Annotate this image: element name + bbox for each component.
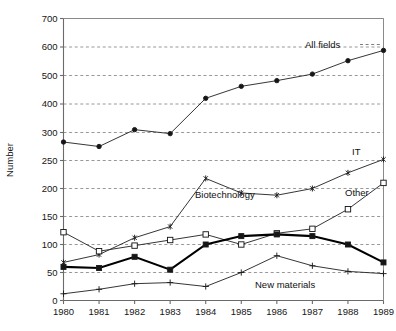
y-tick-label: 400 — [42, 98, 58, 109]
x-tick-label: 1989 — [373, 306, 394, 317]
series-labels: All fieldsITOtherBiotechnologyNew materi… — [195, 39, 381, 290]
data-point-other — [203, 232, 208, 237]
data-point-all-fields — [168, 131, 172, 135]
series-line-new-materials — [64, 256, 384, 294]
data-point-other — [345, 207, 350, 212]
y-axis-ticks: 050100150200250300400500600700 — [42, 13, 64, 306]
data-point-other — [61, 229, 66, 234]
data-point-all-fields — [61, 140, 65, 144]
x-tick-label: 1984 — [195, 306, 216, 317]
x-tick-label: 1987 — [302, 306, 323, 317]
chart-canvas: 050100150200250300400500600700 198019811… — [0, 0, 396, 331]
data-point-other — [310, 226, 315, 231]
data-point-biotechnology — [381, 260, 386, 265]
series-markers — [60, 48, 386, 297]
x-tick-label: 1983 — [160, 306, 181, 317]
series-line-it — [64, 159, 384, 262]
plot-frame — [64, 19, 384, 301]
data-point-biotechnology — [97, 266, 102, 271]
data-point-all-fields — [204, 96, 208, 100]
y-tick-label: 300 — [42, 127, 58, 138]
y-tick-label: 200 — [42, 183, 58, 194]
y-tick-label: 250 — [42, 155, 58, 166]
x-tick-label: 1980 — [53, 306, 74, 317]
data-point-other — [96, 249, 101, 254]
data-point-other — [132, 243, 137, 248]
data-point-biotechnology — [132, 254, 137, 259]
gridlines — [64, 19, 384, 273]
data-point-all-fields — [310, 72, 314, 76]
x-tick-label: 1988 — [337, 306, 358, 317]
data-point-biotechnology — [310, 234, 315, 239]
data-point-biotechnology — [274, 232, 279, 237]
data-point-other — [167, 237, 172, 242]
data-point-biotechnology — [61, 264, 66, 269]
series-line-all-fields — [64, 50, 384, 146]
y-tick-label: 150 — [42, 211, 58, 222]
data-point-biotechnology — [345, 242, 350, 247]
x-tick-label: 1986 — [266, 306, 287, 317]
y-tick-label: 600 — [42, 41, 58, 52]
y-axis-title: Number — [4, 143, 15, 177]
line-chart: 050100150200250300400500600700 198019811… — [0, 0, 396, 331]
series-label-biotechnology: Biotechnology — [195, 189, 255, 200]
x-tick-label: 1982 — [124, 306, 145, 317]
y-tick-label: 50 — [47, 267, 58, 278]
x-tick-label: 1985 — [231, 306, 252, 317]
data-point-biotechnology — [203, 242, 208, 247]
series-label-all-fields: All fields — [305, 39, 341, 50]
data-point-other — [381, 180, 386, 185]
data-point-biotechnology — [239, 234, 244, 239]
series-lines — [64, 50, 384, 293]
data-point-all-fields — [381, 48, 385, 52]
series-line-biotechnology — [64, 234, 384, 269]
data-point-all-fields — [97, 144, 101, 148]
data-point-other — [239, 242, 244, 247]
y-tick-label: 0 — [52, 295, 57, 306]
series-label-it: IT — [352, 146, 361, 157]
data-point-all-fields — [239, 84, 243, 88]
data-point-all-fields — [275, 78, 279, 82]
data-point-all-fields — [346, 58, 350, 62]
y-tick-label: 500 — [42, 70, 58, 81]
x-axis-ticks: 1980198119821983198419851986198719881989 — [53, 301, 394, 318]
series-label-other: Other — [345, 187, 369, 198]
data-point-biotechnology — [168, 267, 173, 272]
y-tick-label: 100 — [42, 239, 58, 250]
x-tick-label: 1981 — [88, 306, 109, 317]
series-label-new-materials: New materials — [255, 279, 315, 290]
data-point-all-fields — [132, 127, 136, 131]
y-tick-label: 700 — [42, 13, 58, 24]
